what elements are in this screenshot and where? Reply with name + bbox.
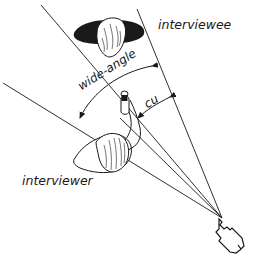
interviewee-label: interviewee [158, 19, 231, 32]
camera [216, 219, 244, 253]
interviewer-head [74, 91, 141, 173]
camera-angle-diagram: interviewee interviewer wide-angle cu [0, 0, 253, 257]
interviewer-label: interviewer [22, 175, 93, 188]
